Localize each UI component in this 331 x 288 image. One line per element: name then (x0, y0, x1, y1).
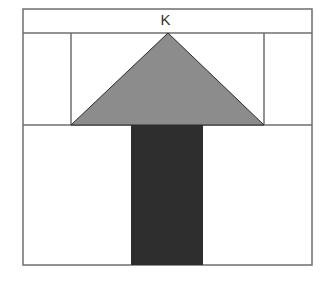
dark-rectangle (131, 125, 203, 265)
diagram-label: K (0, 11, 331, 28)
diagram-canvas (0, 0, 331, 288)
